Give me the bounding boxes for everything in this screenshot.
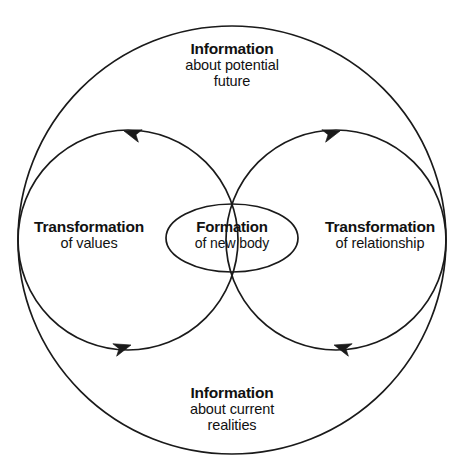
label-top-line2: future [0, 73, 464, 89]
top-right-arrow-icon [322, 125, 342, 142]
label-top-title: Information [0, 40, 464, 57]
label-bottom-title: Information [0, 384, 464, 401]
label-center-line1: of new body [166, 236, 298, 252]
label-bottom-line2: realities [0, 417, 464, 433]
label-left-line1: of values [14, 235, 164, 251]
bottom-left-arrow-icon [113, 339, 133, 356]
label-center-title: Formation [166, 219, 298, 236]
bottom-right-arrow-icon [332, 339, 352, 356]
label-right-line1: of relationship [302, 235, 458, 251]
label-transformation-of-relationship: Transformation of relationship [302, 218, 458, 252]
label-transformation-of-values: Transformation of values [14, 218, 164, 252]
label-formation-of-new-body: Formation of new body [166, 219, 298, 251]
label-information-current-realities: Information about current realities [0, 384, 464, 433]
label-bottom-line1: about current [0, 401, 464, 417]
label-left-title: Transformation [14, 218, 164, 235]
top-left-arrow-icon [122, 125, 142, 142]
label-top-line1: about potential [0, 57, 464, 73]
diagram-canvas: Information about potential future Infor… [0, 0, 464, 473]
label-right-title: Transformation [302, 218, 458, 235]
label-information-potential-future: Information about potential future [0, 40, 464, 89]
